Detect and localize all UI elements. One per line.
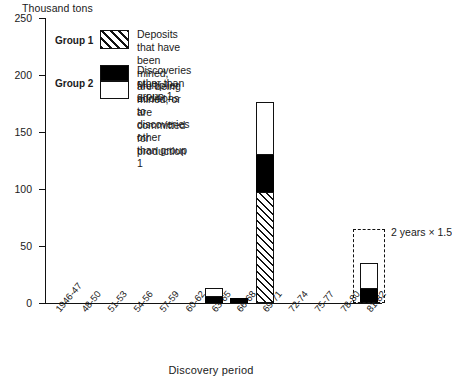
legend-group2-text-bottom: Multiplier additions to discoveries othe… [137, 79, 190, 170]
y-axis-tick-label: 100 [0, 183, 32, 195]
y-axis-tick-label: 200 [0, 69, 32, 81]
x-axis-tick-label: 72-74 [286, 288, 310, 314]
bar-63-65 [205, 288, 223, 303]
bar-segment-solid-black [205, 297, 223, 303]
x-axis-title: Discovery period [0, 364, 422, 376]
bar-segment-open-white [205, 288, 223, 297]
bar-segment-solid-black [256, 155, 274, 193]
y-axis-tick [39, 75, 45, 76]
dashed-projection-box [353, 229, 385, 303]
y-axis-tick-label: 150 [0, 126, 32, 138]
bar-segment-solid-black [230, 298, 248, 303]
y-axis-tick [39, 189, 45, 190]
legend-swatch-black-icon [100, 65, 129, 81]
y-axis-tick-label: 0 [0, 297, 32, 309]
y-axis-title: Thousand tons [22, 2, 93, 14]
y-axis-tick [39, 132, 45, 133]
x-axis-tick-label: 48-50 [79, 288, 103, 314]
y-axis-tick [39, 303, 45, 304]
bar-segment-diagonal-hatch [256, 192, 274, 303]
annotation-label: 2 years × 1.5 [391, 226, 452, 238]
y-axis-line [45, 18, 46, 303]
x-axis-tick-label: 75-77 [312, 288, 336, 314]
legend-group2-label: Group 2 [55, 78, 93, 89]
legend-group1-label: Group 1 [55, 35, 93, 46]
bar-66-68 [230, 298, 248, 303]
y-axis-tick [39, 18, 45, 19]
x-axis-tick-label: 60-62 [183, 288, 207, 314]
x-axis-tick-label: 1946-47 [53, 280, 84, 314]
bar-segment-open-white [256, 102, 274, 154]
bar-69-71 [256, 102, 274, 303]
x-axis-tick-label: 51-53 [105, 288, 129, 314]
y-axis-tick-label: 250 [0, 12, 32, 24]
legend-swatch-hatch-icon [100, 30, 129, 49]
legend-swatch-white-icon [100, 81, 129, 99]
x-axis-tick-label: 54-56 [131, 288, 155, 314]
y-axis-tick [39, 246, 45, 247]
x-axis-tick-label: 57-59 [157, 288, 181, 314]
y-axis-tick-label: 50 [0, 240, 32, 252]
